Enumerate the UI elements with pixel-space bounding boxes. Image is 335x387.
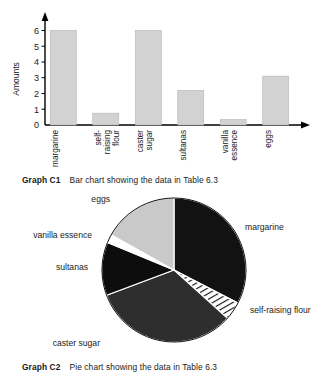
caption-graph-c2: Graph C2Pie chart showing the data in Ta…: [22, 362, 217, 372]
pie-slice-label: eggs: [91, 194, 110, 204]
x-axis-category-label: caster: [136, 130, 145, 153]
pie-slice-label: sultanas: [56, 262, 88, 272]
y-axis-tick-label: 2: [34, 89, 39, 99]
bar: [50, 30, 76, 125]
bar-chart-figure: 0123456Amountsmargarineself-raisingflour…: [0, 0, 335, 172]
x-axis-category-label: self-: [94, 130, 103, 146]
pie-slice-label: self-raising flour: [250, 305, 311, 315]
pie-chart-canvas: margarineself-raising flourcaster sugars…: [0, 188, 335, 358]
y-axis-title: Amounts: [11, 62, 21, 96]
textbook-figure-page: 0123456Amountsmargarineself-raisingflour…: [0, 0, 335, 387]
x-axis-category-label: sugar: [145, 130, 154, 151]
x-axis-category-label: sultanas: [179, 130, 188, 161]
x-axis-category-label: margarine: [51, 130, 60, 167]
x-axis-category-label: essence: [230, 130, 239, 161]
pie-slice-label: caster sugar: [53, 338, 100, 348]
x-axis-category-label: eggs: [264, 130, 273, 148]
caption-c1-id: Graph C1: [22, 175, 61, 185]
x-axis-category-label: vanilla: [221, 130, 230, 154]
bar: [135, 30, 161, 125]
bar: [178, 90, 204, 125]
y-axis-tick-label: 3: [34, 73, 39, 83]
y-axis-tick-label: 4: [34, 57, 39, 67]
y-axis-arrowhead: [42, 12, 49, 21]
pie-slice-label: vanilla essence: [33, 230, 92, 240]
bar: [93, 113, 119, 125]
caption-c2-text: Pie chart showing the data in Table 6.3: [61, 362, 218, 372]
x-axis-category-label: flour: [112, 130, 121, 146]
pie-chart-figure: margarineself-raising flourcaster sugars…: [0, 188, 335, 358]
caption-c1-text: Bar chart showing the data in Table 6.3: [61, 175, 219, 185]
bar: [220, 119, 246, 125]
bar: [263, 76, 289, 125]
caption-c2-id: Graph C2: [22, 362, 61, 372]
pie-slice-label: margarine: [245, 222, 284, 232]
x-axis-arrowhead: [301, 122, 310, 129]
bar-chart-canvas: 0123456Amountsmargarineself-raisingflour…: [0, 0, 335, 172]
y-axis-tick-label: 6: [34, 26, 39, 36]
y-axis-tick-label: 5: [34, 42, 39, 52]
x-axis-category-label: raising: [103, 130, 112, 155]
y-axis-tick-label: 0: [34, 120, 39, 130]
y-axis-tick-label: 1: [34, 105, 39, 115]
caption-graph-c1: Graph C1Bar chart showing the data in Ta…: [22, 175, 218, 185]
